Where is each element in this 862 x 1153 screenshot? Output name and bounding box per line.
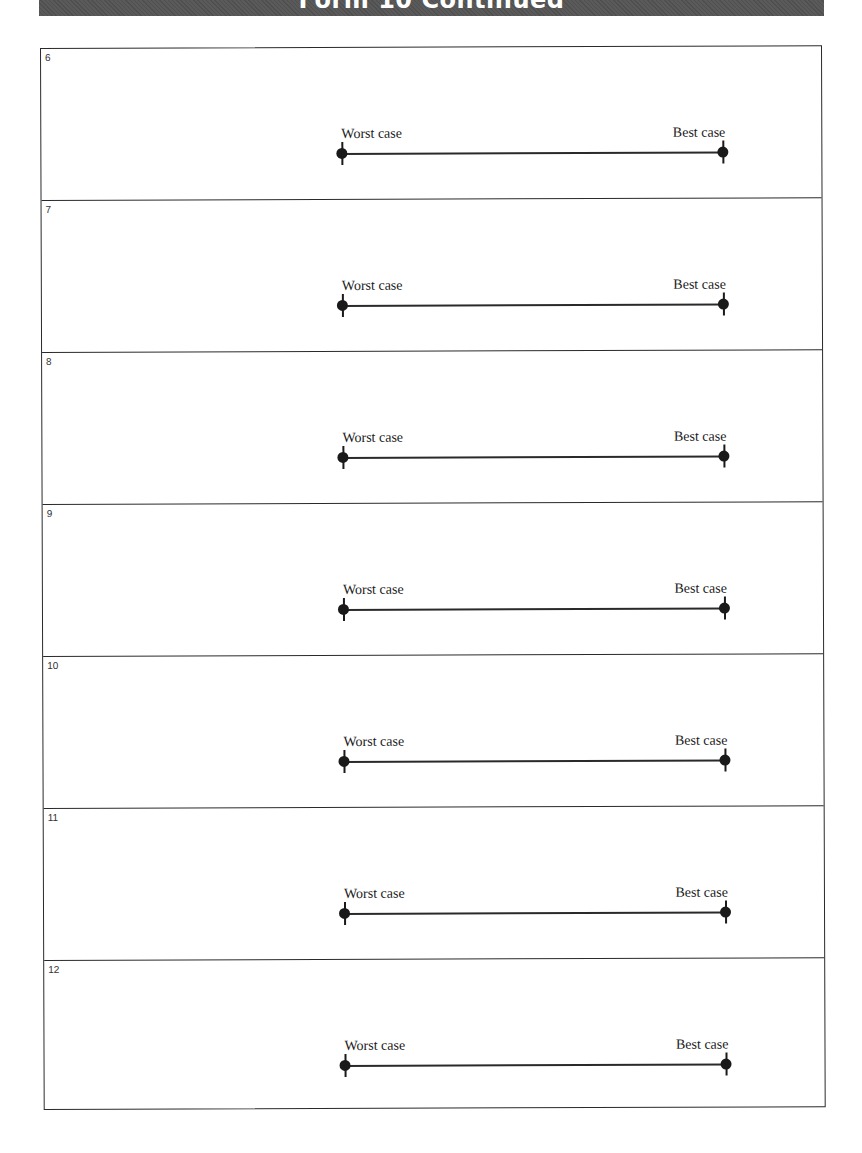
worst-case-endpoint-dot-icon [337, 452, 348, 463]
best-case-endpoint-dot-icon [721, 1059, 732, 1070]
form-row-12: 12 Worst case Best case [44, 958, 825, 1111]
form-row-9: 9 Worst case Best case [43, 502, 824, 657]
form-table: 6 Worst case Best case 7 Worst case Best… [40, 45, 826, 1110]
worst-best-scale-line[interactable]: Worst case Best case [343, 608, 725, 611]
worst-case-endpoint-dot-icon [338, 604, 349, 615]
form-row-10: 10 Worst case Best case [43, 654, 824, 809]
form-row-11: 11 Worst case Best case [44, 806, 825, 961]
best-case-endpoint-dot-icon [719, 603, 730, 614]
best-case-label: Best case [673, 125, 726, 141]
worst-case-label: Worst case [342, 430, 403, 446]
form-title: Form 10 Continued [39, 0, 824, 12]
best-case-label: Best case [673, 277, 726, 293]
row-number: 9 [47, 508, 53, 519]
best-case-endpoint-dot-icon [718, 451, 729, 462]
row-number: 12 [48, 964, 59, 975]
worst-best-scale-line[interactable]: Worst case Best case [342, 304, 724, 307]
worst-case-label: Worst case [341, 126, 402, 142]
best-case-endpoint-dot-icon [717, 147, 728, 158]
worst-case-label: Worst case [344, 1038, 405, 1054]
worst-case-label: Worst case [342, 278, 403, 294]
row-number: 11 [48, 812, 58, 823]
form-row-6: 6 Worst case Best case [41, 46, 822, 201]
row-number: 10 [47, 660, 58, 671]
worst-best-scale-line[interactable]: Worst case Best case [343, 760, 725, 763]
worst-case-label: Worst case [343, 734, 404, 750]
best-case-label: Best case [675, 885, 728, 901]
best-case-endpoint-dot-icon [719, 755, 730, 766]
form-header-bar: Form 10 Continued [39, 0, 824, 16]
row-number: 8 [46, 356, 52, 367]
form-row-7: 7 Worst case Best case [42, 198, 823, 353]
row-number: 6 [45, 52, 51, 63]
worst-case-endpoint-dot-icon [338, 756, 349, 767]
best-case-label: Best case [674, 581, 727, 597]
worst-best-scale-line[interactable]: Worst case Best case [342, 456, 724, 459]
worst-case-endpoint-dot-icon [340, 1060, 351, 1071]
worst-case-endpoint-dot-icon [337, 300, 348, 311]
worst-best-scale-line[interactable]: Worst case Best case [344, 912, 726, 915]
worst-case-endpoint-dot-icon [336, 148, 347, 159]
best-case-label: Best case [676, 1037, 729, 1053]
worst-case-endpoint-dot-icon [339, 908, 350, 919]
form-row-8: 8 Worst case Best case [42, 350, 823, 505]
worst-case-label: Worst case [343, 582, 404, 598]
best-case-endpoint-dot-icon [718, 299, 729, 310]
worst-case-label: Worst case [344, 886, 405, 902]
best-case-endpoint-dot-icon [720, 907, 731, 918]
best-case-label: Best case [675, 733, 728, 749]
row-number: 7 [46, 204, 52, 215]
worst-best-scale-line[interactable]: Worst case Best case [345, 1064, 727, 1067]
best-case-label: Best case [674, 429, 727, 445]
worst-best-scale-line[interactable]: Worst case Best case [341, 152, 723, 155]
